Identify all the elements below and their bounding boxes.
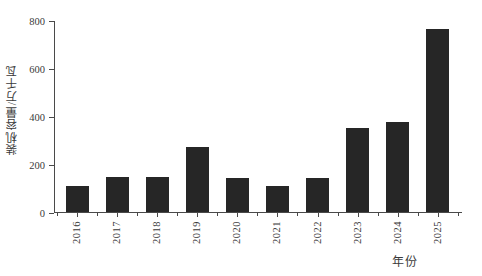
bar bbox=[346, 128, 369, 212]
y-axis-spine bbox=[54, 21, 55, 213]
y-tick-label: 0 bbox=[40, 208, 45, 219]
x-tick bbox=[358, 213, 359, 217]
bar bbox=[186, 147, 209, 212]
y-tick: 600 bbox=[49, 69, 54, 70]
x-minor-tick bbox=[57, 213, 58, 216]
y-tick: 800 bbox=[49, 21, 54, 22]
bar-chart-figure: 装机容量/万千瓦 0200400600800 20162017201820192… bbox=[0, 0, 482, 276]
x-minor-tick bbox=[137, 213, 138, 216]
x-minor-tick bbox=[177, 213, 178, 216]
x-tick bbox=[117, 213, 118, 217]
x-minor-tick bbox=[338, 213, 339, 216]
bar bbox=[146, 177, 169, 212]
x-tick-label: 2016 bbox=[71, 221, 82, 244]
bar bbox=[306, 178, 329, 212]
y-axis-title: 装机容量/万千瓦 bbox=[2, 30, 22, 190]
bar bbox=[386, 122, 409, 212]
x-tick-label: 2021 bbox=[271, 221, 282, 244]
x-minor-tick bbox=[97, 213, 98, 216]
x-tick-label: 2017 bbox=[111, 221, 122, 244]
bar bbox=[106, 177, 129, 212]
x-tick-label: 2024 bbox=[392, 221, 403, 244]
x-axis-title: 年份 bbox=[392, 252, 418, 270]
x-tick-label: 2019 bbox=[191, 221, 202, 244]
x-tick-label: 2018 bbox=[151, 221, 162, 244]
y-tick: 400 bbox=[49, 117, 54, 118]
x-minor-tick bbox=[217, 213, 218, 216]
x-minor-tick bbox=[257, 213, 258, 216]
x-minor-tick bbox=[418, 213, 419, 216]
y-tick-label: 800 bbox=[29, 16, 45, 27]
x-tick bbox=[157, 213, 158, 217]
x-tick-label: 2023 bbox=[352, 221, 363, 244]
x-tick bbox=[277, 213, 278, 217]
x-tick bbox=[318, 213, 319, 217]
x-minor-tick bbox=[297, 213, 298, 216]
plot-area: 0200400600800 20162017201820192020202120… bbox=[54, 21, 462, 213]
bar bbox=[426, 29, 449, 212]
bar bbox=[266, 186, 289, 212]
x-tick-label: 2025 bbox=[432, 221, 443, 244]
x-tick-label: 2022 bbox=[312, 221, 323, 244]
x-tick bbox=[398, 213, 399, 217]
y-tick-label: 400 bbox=[29, 112, 45, 123]
x-minor-tick bbox=[458, 213, 459, 216]
x-tick-label: 2020 bbox=[231, 221, 242, 244]
bar bbox=[66, 186, 89, 212]
y-tick-label: 200 bbox=[29, 160, 45, 171]
x-tick bbox=[438, 213, 439, 217]
y-tick-label: 600 bbox=[29, 64, 45, 75]
x-tick bbox=[237, 213, 238, 217]
y-tick: 0 bbox=[49, 213, 54, 214]
x-tick bbox=[77, 213, 78, 217]
x-minor-tick bbox=[378, 213, 379, 216]
y-tick: 200 bbox=[49, 165, 54, 166]
y-axis-title-text: 装机容量/万千瓦 bbox=[4, 64, 20, 155]
bar bbox=[226, 178, 249, 212]
x-tick bbox=[197, 213, 198, 217]
